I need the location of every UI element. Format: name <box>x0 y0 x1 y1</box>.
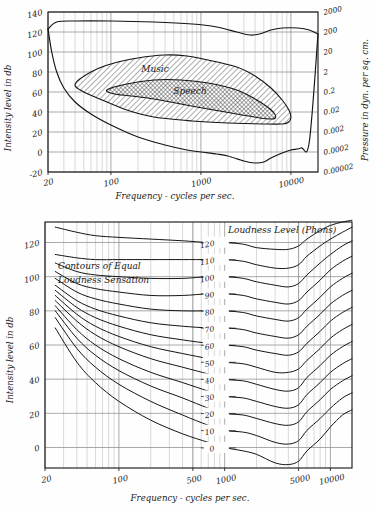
y-tick-label: 20 <box>30 127 43 139</box>
y-tick-label: 100 <box>23 272 40 285</box>
y-tick-label: 60 <box>28 340 40 352</box>
bottom-chart-svg: 201005001000500010000120100806040200 120… <box>0 205 377 510</box>
top-chart-svg: 20100100010000140120100806040200-2020002… <box>0 0 377 205</box>
phon-level-label: 70 <box>204 324 215 335</box>
music-region-label: Music <box>140 64 169 74</box>
phon-level-label: 100 <box>199 273 215 284</box>
speech-region-label: Speech <box>173 86 206 96</box>
y2-tick-label: 0.002 <box>323 124 346 137</box>
x-tick-label: 500 <box>186 473 203 486</box>
phon-label-backing <box>203 442 229 453</box>
y2-tick-label: 2000 <box>322 4 344 17</box>
phon-level-label: 110 <box>199 256 215 267</box>
x-tick-label: 100 <box>112 473 129 486</box>
phon-level-label: 60 <box>204 341 215 352</box>
bottom-chart-x-axis-title: Frequency - cycles per sec. <box>130 493 250 503</box>
y-tick-label: 120 <box>23 238 40 251</box>
x-tick-label: 1000 <box>190 175 212 189</box>
y-tick-label: 20 <box>27 409 40 421</box>
y2-tick-label: 2 <box>322 67 330 77</box>
top-chart-auditory-area: 20100100010000140120100806040200-2020002… <box>0 0 377 205</box>
y-tick-label: 120 <box>26 27 43 40</box>
bottom-chart-phon-labels: 1201101009080706050403020100 <box>199 237 235 454</box>
phon-level-label: 90 <box>204 290 215 301</box>
y-tick-label: 100 <box>26 47 43 60</box>
phon-level-label: 80 <box>204 307 215 318</box>
y-tick-label: 40 <box>30 107 43 119</box>
auditory-boundary-curve <box>48 21 318 35</box>
x-tick-label: 20 <box>39 473 52 485</box>
y-tick-label: 140 <box>26 7 43 20</box>
phon-level-label: 10 <box>204 427 215 438</box>
x-tick-label: 10000 <box>318 471 346 486</box>
y2-tick-label: 200 <box>322 25 339 37</box>
contours-annotation-line2: Loudness Sensation <box>57 275 149 285</box>
top-chart-y2-axis-title: Pressure in dyn. per sq. cm. <box>360 39 370 162</box>
phon-level-label: 40 <box>203 375 215 386</box>
y-tick-label: 40 <box>27 374 40 386</box>
y-tick-label: 80 <box>31 67 43 79</box>
y2-tick-label: 0.2 <box>323 86 337 97</box>
y2-tick-label: 20 <box>322 46 334 57</box>
x-tick-label: 20 <box>41 176 54 188</box>
y2-tick-label: 0.02 <box>323 105 341 117</box>
top-chart-y-axis-title: Intensity level in db <box>3 65 13 152</box>
y2-tick-label: 0.0002 <box>323 143 350 157</box>
x-tick-label: 100 <box>103 176 120 189</box>
phon-level-label: 30 <box>204 393 215 404</box>
loudness-legend-title: Loudness Level (Phons) <box>227 225 337 235</box>
x-tick-label: 1000 <box>215 472 237 486</box>
phon-level-label: 20 <box>203 410 215 421</box>
y2-tick-label: 0.00002 <box>323 162 355 177</box>
y-tick-label: 80 <box>28 306 40 318</box>
phon-level-label: 120 <box>199 239 215 250</box>
phon-level-label: 50 <box>204 358 215 369</box>
bottom-chart-y-axis-title: Intensity level in db <box>5 317 15 404</box>
x-tick-label: 5000 <box>289 472 311 486</box>
top-chart-x-axis-title: Frequency - cycles per sec. <box>115 191 235 201</box>
y-tick-label: 60 <box>31 87 43 99</box>
x-tick-label: 10000 <box>278 174 306 189</box>
contours-annotation-line1: Contours of Equal <box>58 261 141 271</box>
figure-page: 20100100010000140120100806040200-2020002… <box>0 0 377 510</box>
bottom-chart-equal-loudness: 201005001000500010000120100806040200 120… <box>0 205 377 510</box>
y-tick-label: 0 <box>36 147 43 158</box>
y-tick-label: 0 <box>33 443 40 454</box>
